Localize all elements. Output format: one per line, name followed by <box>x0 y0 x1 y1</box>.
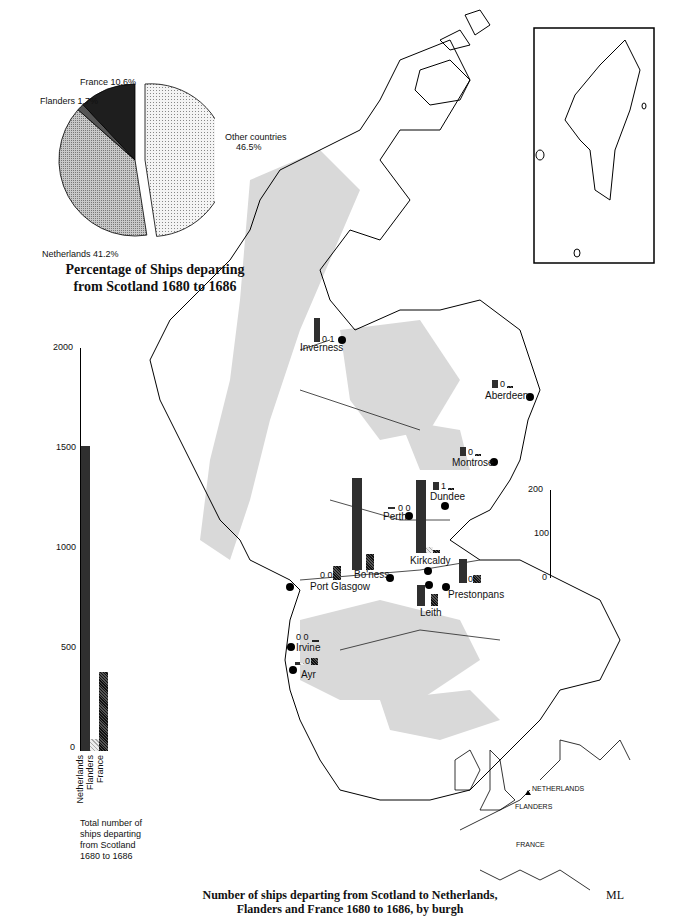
burgh-tick-0: 0 <box>542 573 547 582</box>
map-title-line2: Flanders and France 1680 to 1686, by bur… <box>150 902 550 916</box>
bar-france <box>433 550 440 553</box>
pie-title-line1: Percentage of Ships departing <box>55 262 255 278</box>
bar-netherlands <box>314 318 320 342</box>
map-title: Number of ships departing from Scotland … <box>150 888 550 916</box>
burgh-scale-axis <box>550 490 551 578</box>
bar-france <box>507 386 513 388</box>
pie-label-france: France 10.6% <box>80 78 136 87</box>
burgh-aberdeen-label: Aberdeen <box>485 391 528 401</box>
burgh-leith <box>417 585 447 606</box>
pie-label-netherlands: Netherlands 41.2% <box>42 250 119 259</box>
bar-netherlands-total <box>81 446 90 751</box>
inset-label-france: FRANCE <box>516 841 545 848</box>
inset-label-flanders: FLANDERS <box>515 803 552 810</box>
burgh-ayr-marker <box>289 666 297 674</box>
burgh-aberdeen <box>492 378 522 388</box>
burgh-tick-200: 200 <box>528 485 543 494</box>
bar-france <box>431 594 438 606</box>
bar-netherlands <box>459 559 467 583</box>
burgh-montrose-label: Montrose <box>452 458 494 468</box>
category-flanders: Flanders <box>86 755 95 790</box>
burgh-ayr-label: Ayr <box>301 670 316 680</box>
burgh-leith-label: Leith <box>420 608 442 618</box>
burgh-ayr-zeros: 0 <box>305 657 310 666</box>
bar-netherlands <box>416 480 426 553</box>
burgh-prestonpans-label: Prestonpans <box>448 590 504 600</box>
burgh-prestonpans <box>459 559 489 583</box>
bar-france <box>475 454 481 456</box>
bar-france <box>448 488 454 490</box>
author-initials: ML <box>606 888 624 903</box>
burgh-kirkcaldy <box>416 480 446 553</box>
burgh-montrose-zeros: 0 <box>468 448 473 457</box>
tick-0: 0 <box>70 743 75 752</box>
pie-label-other-value: 46.5% <box>236 143 262 152</box>
bar-france-total <box>99 672 108 751</box>
burgh-kirkcaldy-marker <box>424 567 432 575</box>
category-netherlands: Netherlands <box>76 755 85 804</box>
bar-france <box>366 554 374 570</box>
burgh-irvine-label: Irvine <box>296 643 320 653</box>
pie-label-flanders: Flanders 1.7% <box>40 97 98 106</box>
burgh-kirkcaldy-label: Kirkcaldy <box>410 556 451 566</box>
burgh-aberdeen-zeros: 0 <box>500 380 505 389</box>
bar-flanders-total <box>90 739 99 751</box>
burgh-irvine-marker <box>287 643 295 651</box>
totals-bars <box>81 348 111 751</box>
burgh-port-glasgow-label: Port Glasgow <box>310 582 370 592</box>
bar-france <box>473 575 481 583</box>
burgh-irvine-zeros: 0 0 <box>296 633 309 642</box>
bar-netherlands <box>352 478 362 570</box>
burgh-prestonpans-zeros: 0 <box>468 575 473 584</box>
bar-france <box>333 566 341 580</box>
pie-label-other: Other countries <box>225 133 287 142</box>
burgh-perth-label: Perth <box>383 512 407 522</box>
tick-1500: 1500 <box>56 443 76 452</box>
burgh-boness-marker <box>386 574 394 582</box>
bar-netherlands <box>492 380 498 388</box>
burgh-port-glasgow-zeros: 0 0 <box>320 571 333 580</box>
map-title-line1: Number of ships departing from Scotland … <box>150 888 550 902</box>
category-france: France <box>96 755 105 783</box>
burgh-boness-label: Bo'ness <box>354 570 389 580</box>
bar-netherlands <box>417 585 425 606</box>
burgh-montrose <box>460 446 490 456</box>
tick-1000: 1000 <box>56 543 76 552</box>
bar-france <box>311 658 318 665</box>
bar-flanders <box>300 663 304 665</box>
inset-label-netherlands: NETHERLANDS <box>532 785 584 792</box>
burgh-tick-100: 100 <box>534 529 549 538</box>
bar-netherlands <box>388 507 395 509</box>
tick-2000: 2000 <box>53 343 73 352</box>
shetland-inset-frame <box>534 28 654 263</box>
burgh-port-glasgow-marker <box>286 583 294 591</box>
burgh-inverness-label: Inverness <box>300 343 343 353</box>
burgh-port-glasgow <box>333 566 343 580</box>
burgh-scale: 200 100 0 <box>520 488 560 583</box>
totals-caption: Total number of ships departing from Sco… <box>80 818 142 862</box>
burgh-leith-marker <box>425 581 433 589</box>
pie-title-line2: from Scotland 1680 to 1686 <box>55 279 255 295</box>
bar-netherlands <box>460 447 466 456</box>
burgh-boness <box>352 478 382 570</box>
totals-chart: 2000 1500 1000 500 0 Netherlands Flander… <box>0 340 120 760</box>
bar-flanders <box>426 547 433 553</box>
tick-500: 500 <box>61 643 76 652</box>
